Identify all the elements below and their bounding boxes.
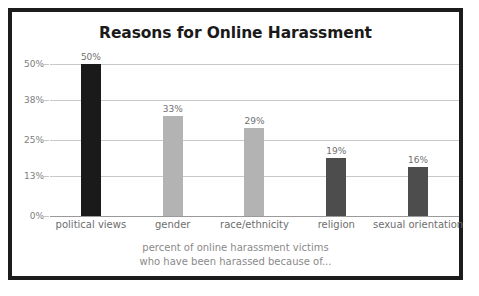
page-title: Reasons for Online Harassment xyxy=(12,24,459,42)
y-axis-tick-label: 25% xyxy=(24,135,44,145)
caption-line-1: percent of online harassment victims xyxy=(12,241,459,255)
bar-value-label: 50% xyxy=(81,52,101,62)
gridline xyxy=(50,216,459,217)
bar-slot: 50% xyxy=(50,64,132,216)
plot-area: 0%13%25%38%50% 50%33%29%19%16% xyxy=(50,64,459,216)
y-axis-tick-label: 13% xyxy=(24,171,44,181)
bar[interactable] xyxy=(408,167,428,216)
x-axis-category-label: political views xyxy=(56,219,127,230)
bars-group: 50%33%29%19%16% xyxy=(50,64,459,216)
x-axis-category-label: sexual orientation xyxy=(373,219,463,230)
bar-slot: 33% xyxy=(132,64,214,216)
bar-value-label: 29% xyxy=(244,116,264,126)
bar-value-label: 19% xyxy=(326,146,346,156)
bar-slot: 19% xyxy=(295,64,377,216)
y-axis-tick-label: 0% xyxy=(30,211,44,221)
bar-slot: 29% xyxy=(214,64,296,216)
caption-line-2: who have been harassed because of... xyxy=(12,255,459,269)
y-tick-mark xyxy=(44,176,49,177)
chart-caption: percent of online harassment victims who… xyxy=(12,241,459,269)
y-axis-tick-label: 50% xyxy=(24,59,44,69)
bar-value-label: 33% xyxy=(163,104,183,114)
y-tick-mark xyxy=(44,140,49,141)
bar[interactable] xyxy=(163,116,183,216)
bar-slot: 16% xyxy=(377,64,459,216)
y-tick-mark xyxy=(44,216,49,217)
chart-card: Reasons for Online Harassment 0%13%25%38… xyxy=(8,8,463,280)
x-axis-category-label: gender xyxy=(155,219,190,230)
x-axis-category-labels: political viewsgenderrace/ethnicityrelig… xyxy=(50,219,459,235)
y-axis-tick-label: 38% xyxy=(24,95,44,105)
bar[interactable] xyxy=(326,158,346,216)
bar[interactable] xyxy=(244,128,264,216)
x-axis-category-label: race/ethnicity xyxy=(220,219,289,230)
y-tick-mark xyxy=(44,64,49,65)
y-tick-mark xyxy=(44,100,49,101)
chart-plot-container: Reasons for Online Harassment 0%13%25%38… xyxy=(12,12,459,276)
x-axis-category-label: religion xyxy=(318,219,355,230)
bar-value-label: 16% xyxy=(408,155,428,165)
bar[interactable] xyxy=(81,64,101,216)
